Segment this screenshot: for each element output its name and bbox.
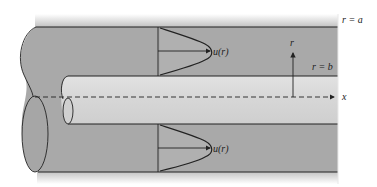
inner-radius-label: r = b [312, 61, 333, 72]
top-shade-band [35, 14, 338, 28]
annulus-flow-diagram: x r r = a r = b u(r) u(r) [0, 0, 377, 187]
outer-radius-label: r = a [342, 14, 363, 25]
inner-rod-body [61, 76, 338, 124]
x-axis-label: x [341, 91, 347, 102]
r-axis-label: r [290, 37, 294, 48]
lower-velocity-label: u(r) [213, 143, 229, 155]
bottom-shade-band [37, 172, 338, 184]
upper-velocity-label: u(r) [213, 46, 229, 58]
inner-rod-end-cap [63, 98, 73, 124]
outer-end-cap [22, 96, 48, 172]
